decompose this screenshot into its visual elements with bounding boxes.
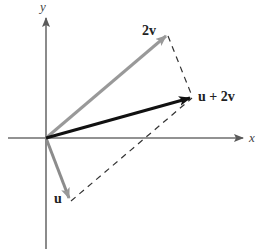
y-axis-label: y (40, 0, 46, 13)
vector-diagram: y x 2v u + 2v u (0, 0, 259, 250)
vector-2v-label: 2v (142, 24, 156, 38)
x-axis-label: x (249, 131, 255, 144)
diagram-canvas (0, 0, 259, 250)
vector-u-label: u (54, 192, 62, 206)
vector-u-plus-2v-label: u + 2v (198, 90, 235, 104)
vector-u-arrow (46, 138, 69, 198)
dashed-line-2v-to-sum (168, 36, 192, 96)
